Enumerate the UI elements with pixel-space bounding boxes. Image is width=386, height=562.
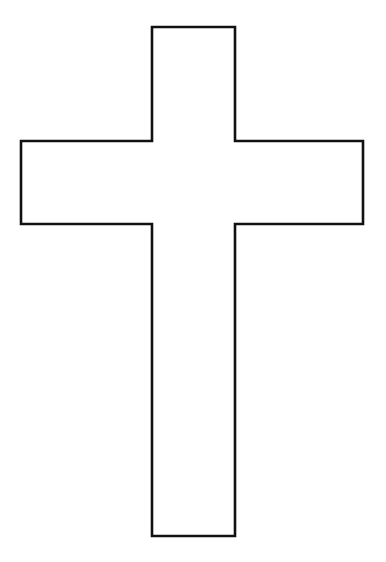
cross-outline-drawing	[0, 0, 386, 562]
drawing-canvas	[0, 0, 386, 562]
